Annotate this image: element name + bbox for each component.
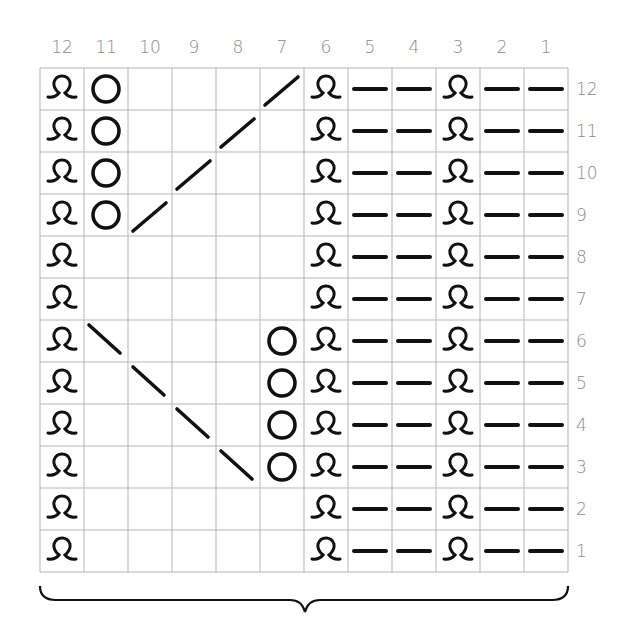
twisted-stitch-icon	[436, 194, 480, 236]
left-decrease-icon	[216, 446, 260, 488]
chart-cell	[348, 152, 392, 194]
purl-icon	[348, 152, 392, 194]
twisted-stitch-icon	[304, 446, 348, 488]
chart-cell	[172, 530, 216, 572]
chart-cell	[260, 320, 304, 362]
chart-cell	[348, 110, 392, 152]
purl-icon	[348, 68, 392, 110]
left-decrease-icon	[128, 362, 172, 404]
purl-icon	[348, 488, 392, 530]
knitting-chart: 121110987654321 121110987654321	[0, 0, 622, 619]
chart-cell	[524, 362, 568, 404]
twisted-stitch-icon	[436, 404, 480, 446]
chart-cell	[480, 236, 524, 278]
purl-icon	[524, 110, 568, 152]
chart-cell	[392, 194, 436, 236]
twisted-stitch-icon	[304, 194, 348, 236]
purl-icon	[392, 152, 436, 194]
chart-cell	[436, 488, 480, 530]
yarn-over-icon	[84, 110, 128, 152]
twisted-stitch-icon	[40, 68, 84, 110]
chart-cell	[216, 152, 260, 194]
chart-cell	[128, 68, 172, 110]
chart-cell	[480, 110, 524, 152]
purl-icon	[348, 446, 392, 488]
chart-cell	[84, 110, 128, 152]
purl-icon	[348, 530, 392, 572]
chart-cell	[524, 194, 568, 236]
chart-cell	[480, 320, 524, 362]
chart-cell	[216, 236, 260, 278]
chart-cell	[40, 530, 84, 572]
chart-cell	[172, 68, 216, 110]
chart-cell	[40, 236, 84, 278]
purl-icon	[392, 68, 436, 110]
chart-cell	[216, 530, 260, 572]
twisted-stitch-icon	[436, 488, 480, 530]
right-decrease-icon	[216, 110, 260, 152]
chart-cell	[40, 152, 84, 194]
chart-cell	[172, 194, 216, 236]
chart-cell	[480, 362, 524, 404]
chart-cell	[172, 320, 216, 362]
chart-cell	[84, 320, 128, 362]
chart-cell	[128, 320, 172, 362]
chart-cell	[524, 404, 568, 446]
twisted-stitch-icon	[304, 404, 348, 446]
chart-cell	[216, 278, 260, 320]
twisted-stitch-icon	[304, 488, 348, 530]
yarn-over-icon	[84, 68, 128, 110]
purl-icon	[524, 194, 568, 236]
chart-cell	[436, 194, 480, 236]
chart-cell	[304, 194, 348, 236]
chart-cell	[40, 194, 84, 236]
twisted-stitch-icon	[304, 110, 348, 152]
chart-cell	[128, 404, 172, 446]
purl-icon	[480, 488, 524, 530]
purl-icon	[524, 362, 568, 404]
chart-cell	[84, 530, 128, 572]
yarn-over-icon	[260, 404, 304, 446]
chart-cell	[304, 236, 348, 278]
chart-cell	[524, 446, 568, 488]
chart-cell	[260, 236, 304, 278]
purl-icon	[524, 404, 568, 446]
chart-cell	[524, 278, 568, 320]
chart-cell	[304, 110, 348, 152]
chart-cell	[84, 404, 128, 446]
purl-icon	[348, 236, 392, 278]
chart-cell	[392, 404, 436, 446]
chart-cell	[172, 236, 216, 278]
chart-cell	[304, 488, 348, 530]
chart-cell	[392, 362, 436, 404]
chart-cell	[172, 488, 216, 530]
twisted-stitch-icon	[436, 530, 480, 572]
chart-cell	[260, 362, 304, 404]
chart-cell	[216, 110, 260, 152]
chart-cell	[128, 236, 172, 278]
left-decrease-icon	[172, 404, 216, 446]
chart-cell	[128, 152, 172, 194]
yarn-over-icon	[260, 446, 304, 488]
purl-icon	[392, 236, 436, 278]
purl-icon	[480, 404, 524, 446]
chart-cell	[436, 404, 480, 446]
chart-cell	[84, 488, 128, 530]
twisted-stitch-icon	[436, 320, 480, 362]
twisted-stitch-icon	[304, 152, 348, 194]
chart-cell	[436, 320, 480, 362]
chart-cell	[436, 446, 480, 488]
chart-cell	[216, 362, 260, 404]
purl-icon	[392, 488, 436, 530]
twisted-stitch-icon	[304, 278, 348, 320]
purl-icon	[392, 404, 436, 446]
purl-icon	[348, 362, 392, 404]
chart-cell	[84, 278, 128, 320]
chart-cell	[172, 278, 216, 320]
chart-cell	[480, 68, 524, 110]
purl-icon	[524, 488, 568, 530]
chart-cell	[480, 404, 524, 446]
chart-cell	[524, 320, 568, 362]
purl-icon	[480, 320, 524, 362]
chart-cell	[260, 278, 304, 320]
